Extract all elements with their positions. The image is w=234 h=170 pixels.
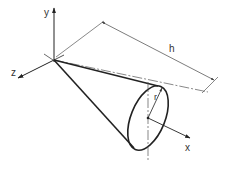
height-label: h — [169, 43, 175, 54]
z-axis-label: z — [11, 67, 16, 78]
x-axis-label: x — [185, 142, 190, 153]
cone-sides — [54, 60, 158, 148]
y-axis-label: y — [44, 7, 49, 18]
radius-label: r — [154, 92, 157, 102]
cone-diagram: y z h x r — [0, 0, 234, 170]
z-axis — [18, 55, 64, 78]
x-axis — [148, 118, 190, 138]
height-dimension — [56, 21, 218, 93]
